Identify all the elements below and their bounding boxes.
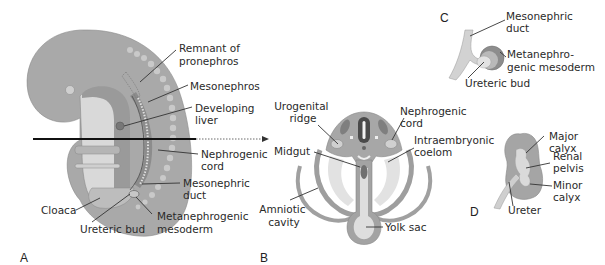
label-renal-pelvis: Renal pelvis	[553, 150, 586, 174]
arrow-head-icon	[262, 136, 269, 142]
label-mesonephric-duct-c: Mesonephric duct	[506, 10, 576, 34]
leader-ureteric-bud-c	[468, 62, 484, 78]
label-nephrogenic-cord-b: Nephrogenic cord	[400, 105, 470, 129]
label-ureter: Ureter	[508, 204, 542, 216]
otic-vesicle	[66, 86, 75, 95]
leader-mesonephric-duct-c	[470, 20, 505, 36]
label-metanephrogenic-mesoderm: Metanephrogenic mesoderm	[157, 210, 252, 235]
label-metanephrogenic-mesoderm-c: Metanephro- genic mesoderm	[507, 48, 595, 73]
panel-b-cross-section: Urogenital ridge Nephrogenic cord Midgut…	[259, 100, 497, 265]
label-remnant-of-pronephros: Remnant of pronephros	[179, 42, 243, 67]
label-midgut: Midgut	[274, 145, 310, 157]
label-minor-calyx: Minor calyx	[553, 179, 586, 203]
midgut-lumen	[361, 165, 368, 179]
yolk-stalk	[75, 146, 120, 154]
metanephrogenic-mass	[129, 191, 139, 198]
neural-canal	[363, 121, 366, 139]
allantois	[75, 164, 120, 168]
label-intraembryonic-coelom: Intraembryonic coelom	[414, 134, 498, 158]
nephrogenic-cord-right	[385, 140, 397, 149]
label-mesonephros: Mesonephros	[190, 80, 260, 92]
panel-letter-a: A	[20, 251, 28, 265]
label-ureteric-bud-c: Ureteric bud	[465, 77, 530, 89]
aorta	[362, 146, 366, 150]
embryology-diagram: Remnant of pronephros Mesonephros Develo…	[0, 0, 605, 265]
panel-c-ureteric-bud: Mesonephric duct Metanephro- genic mesod…	[440, 10, 595, 89]
panel-letter-b: B	[260, 251, 268, 265]
label-amniotic-cavity: Amniotic cavity	[259, 203, 309, 228]
label-mesonephric-duct: Mesonephric duct	[183, 177, 253, 201]
duct-left	[350, 136, 353, 139]
label-urogenital-ridge: Urogenital ridge	[274, 100, 332, 124]
nephrogenic-cord-left	[331, 140, 343, 149]
label-nephrogenic-cord: Nephrogenic cord	[201, 148, 271, 172]
label-cloaca: Cloaca	[41, 204, 76, 216]
label-developing-liver: Developing liver	[195, 102, 258, 126]
panel-letter-c: C	[440, 11, 449, 25]
panel-letter-d: D	[470, 205, 479, 219]
liver-bud	[116, 122, 124, 130]
coelom-right	[374, 156, 400, 206]
label-ureteric-bud: Ureteric bud	[80, 223, 145, 235]
leader-amniotic-cavity	[290, 188, 318, 200]
panel-a-embryo: Remnant of pronephros Mesonephros Develo…	[20, 30, 271, 265]
duct-right	[375, 136, 378, 139]
label-yolk-sac: Yolk sac	[384, 221, 427, 233]
